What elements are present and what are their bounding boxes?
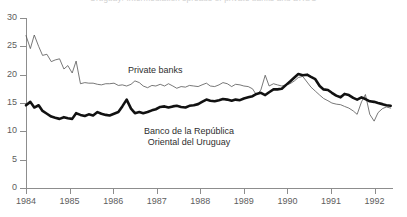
annotation-brou-line2: Oriental del Uruguay	[104, 137, 274, 148]
annotation-brou-line1: Banco de la República	[104, 126, 274, 137]
series-line-brou	[26, 74, 391, 119]
annotation-private-banks: Private banks	[128, 65, 183, 76]
annotation-brou: Banco de la República Oriental del Urugu…	[104, 126, 274, 148]
chart-plot-lines	[0, 0, 407, 217]
series-line-private-banks	[26, 35, 391, 121]
figure-container: Uruguay: Intermediation spreads of priva…	[0, 0, 407, 217]
